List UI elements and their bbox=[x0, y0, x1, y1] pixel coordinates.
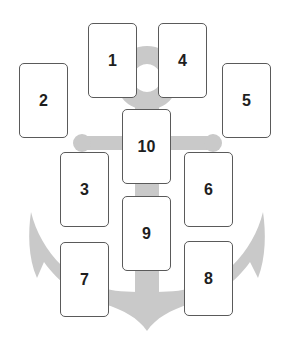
card-1: 1 bbox=[88, 23, 137, 98]
card-10: 10 bbox=[122, 109, 171, 184]
card-5: 5 bbox=[222, 63, 271, 138]
card-number: 9 bbox=[142, 226, 151, 242]
card-number: 1 bbox=[108, 53, 117, 69]
anchor-stock-right-knob bbox=[204, 134, 222, 152]
anchor-stock-left-knob bbox=[73, 134, 91, 152]
card-number: 3 bbox=[80, 182, 89, 198]
card-3: 3 bbox=[60, 152, 109, 227]
card-8: 8 bbox=[184, 241, 233, 316]
card-7: 7 bbox=[60, 242, 109, 317]
card-number: 10 bbox=[138, 139, 156, 155]
card-9: 9 bbox=[122, 196, 171, 271]
card-number: 8 bbox=[204, 271, 213, 287]
card-number: 5 bbox=[242, 93, 251, 109]
card-2: 2 bbox=[19, 63, 68, 138]
card-number: 4 bbox=[178, 53, 187, 69]
card-number: 2 bbox=[39, 93, 48, 109]
card-6: 6 bbox=[184, 152, 233, 227]
card-number: 6 bbox=[204, 182, 213, 198]
card-4: 4 bbox=[158, 23, 207, 98]
card-number: 7 bbox=[80, 272, 89, 288]
